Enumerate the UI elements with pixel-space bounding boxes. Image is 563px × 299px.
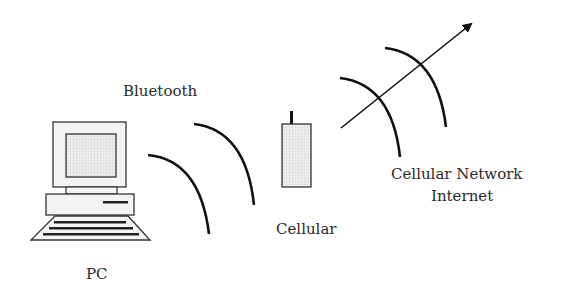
cellular-phone-icon — [282, 111, 311, 187]
diagram-canvas — [0, 0, 563, 299]
pc-computer-icon — [31, 122, 150, 240]
phone-body — [282, 124, 311, 187]
keyboard-row-1 — [54, 221, 126, 224]
internet-label: Internet — [431, 189, 493, 204]
monitor-neck — [66, 187, 117, 194]
cellular-waves-icon — [340, 48, 446, 157]
keyboard-row-3 — [43, 233, 139, 236]
phone-antenna — [290, 111, 293, 124]
drive-slot — [103, 201, 128, 204]
bluetooth-waves-icon — [148, 124, 254, 234]
keyboard-row-2 — [49, 227, 133, 230]
pc-label: PC — [86, 267, 108, 282]
cellular-label: Cellular — [276, 222, 337, 237]
monitor-screen — [66, 134, 116, 177]
bluetooth-label: Bluetooth — [123, 84, 197, 99]
system-unit — [46, 194, 134, 215]
network-arrow-icon — [341, 24, 471, 128]
cellular-network-label: Cellular Network — [391, 167, 522, 182]
